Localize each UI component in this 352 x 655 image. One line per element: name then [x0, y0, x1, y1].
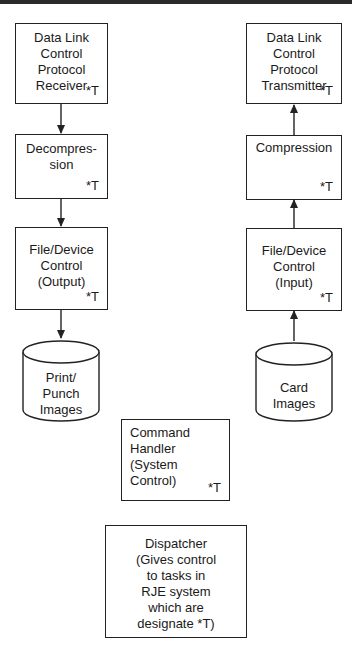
file-device-input-label: File/Device Control (Input) [247, 243, 341, 291]
task-marker: *T [320, 290, 333, 306]
task-marker: *T [320, 83, 333, 99]
task-marker: *T [208, 480, 221, 496]
file-device-output-box: File/Device Control (Output) *T [15, 227, 108, 310]
decompression-label: Decompres- sion [16, 141, 107, 173]
task-marker: *T [86, 83, 99, 99]
command-handler-box: Command Handler (System Control) *T [121, 419, 230, 501]
decompression-box: Decompres- sion *T [15, 134, 108, 199]
card-images-label: Card Images [256, 380, 332, 412]
print-punch-images-label: Print/ Punch Images [23, 370, 99, 418]
file-device-input-box: File/Device Control (Input) *T [246, 228, 342, 311]
task-marker: *T [320, 179, 333, 195]
file-device-output-label: File/Device Control (Output) [16, 242, 107, 290]
compression-label: Compression [247, 140, 341, 156]
task-marker: *T [86, 178, 99, 194]
task-marker: *T [86, 289, 99, 305]
dlc-receiver-box: Data Link Control Protocol Receiver *T [15, 23, 108, 104]
compression-box: Compression *T [246, 135, 342, 200]
dlc-transmitter-box: Data Link Control Protocol Transmitter *… [246, 23, 342, 104]
dispatcher-box: Dispatcher (Gives control to tasks in RJ… [105, 525, 247, 638]
dispatcher-label: Dispatcher (Gives control to tasks in RJ… [106, 536, 246, 632]
